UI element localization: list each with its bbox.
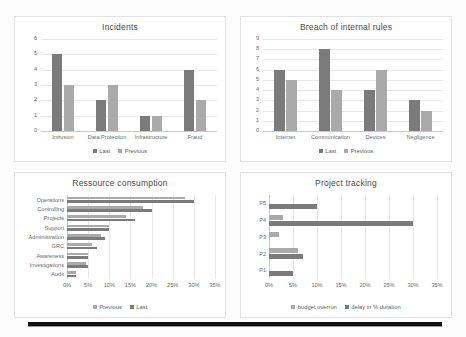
legend-label-previous: Previous	[99, 304, 122, 310]
bar-previous	[67, 271, 76, 274]
legend-label-previous: Previous	[125, 148, 148, 154]
bar-delay-in-duration	[269, 221, 413, 226]
y-axis-tick-label: 0	[21, 127, 37, 133]
legend-swatch-last-icon	[319, 149, 323, 153]
legend-swatch-budget-overrun-icon	[291, 305, 295, 309]
y-axis-tick-label: 8	[243, 45, 259, 51]
legend-label-last: Last	[136, 304, 147, 310]
gridline-y	[263, 70, 443, 71]
y-axis-tick-label: Investigations	[16, 262, 64, 268]
x-axis-tick-label: 25%	[378, 282, 400, 288]
x-axis-tick-label: Infrastructure	[129, 134, 173, 140]
chart-legend-breach: Last Previous	[241, 148, 451, 154]
y-axis-tick-label: 1	[243, 117, 259, 123]
gridline-y	[41, 54, 217, 55]
chart-title-incidents: Incidents	[15, 17, 225, 33]
x-axis-tick-label: 0%	[56, 282, 78, 288]
bar-delay-in-duration	[269, 204, 317, 209]
y-axis-tick-label: Controlling	[16, 206, 64, 212]
bar-previous	[286, 80, 297, 131]
y-axis-tick-label: 4	[243, 86, 259, 92]
y-axis-tick-label: 9	[243, 35, 259, 41]
x-axis-tick-label: 25%	[162, 282, 184, 288]
bar-previous	[67, 243, 92, 246]
bar-last	[274, 70, 285, 131]
x-axis-tick-label: Intrusion	[41, 134, 85, 140]
gridline-x	[152, 195, 153, 279]
plot-area-ressource: 0%5%10%15%20%25%30%35%OperationsControll…	[67, 195, 215, 279]
bar-delay-in-duration	[269, 254, 303, 259]
legend-item-previous: Previous	[118, 148, 147, 154]
bar-previous	[376, 70, 387, 131]
bar-last	[409, 100, 420, 131]
y-axis-tick-label: Operations	[16, 197, 64, 203]
bar-delay-in-duration	[269, 271, 293, 276]
y-axis-tick-label: 0	[243, 127, 259, 133]
y-axis-tick-label: 4	[21, 66, 37, 72]
bar-budget-overrun	[269, 215, 283, 220]
bar-last	[67, 275, 76, 278]
gridline-x	[173, 195, 174, 279]
bar-last	[364, 90, 375, 131]
x-axis-tick-label: 5%	[282, 282, 304, 288]
bar-last	[319, 49, 330, 131]
x-axis-tick-label: 30%	[183, 282, 205, 288]
y-axis-tick-label: P2	[244, 251, 266, 257]
legend-swatch-previous-icon	[344, 149, 348, 153]
legend-label-last: Last	[99, 148, 110, 154]
bar-last	[140, 116, 151, 131]
x-axis-tick-label: Internet	[263, 134, 308, 140]
y-axis-tick-label: Projects	[16, 215, 64, 221]
x-axis-tick-label: Fraud	[173, 134, 217, 140]
gridline-x	[317, 195, 318, 279]
gridline-x	[194, 195, 195, 279]
bar-last	[67, 237, 105, 240]
y-axis-tick-label: 5	[21, 50, 37, 56]
legend-item-delay: delay in % duration	[345, 304, 401, 310]
bar-last	[67, 219, 135, 222]
bar-previous	[67, 234, 101, 237]
y-axis-tick-label: 5	[243, 76, 259, 82]
gridline-x	[413, 195, 414, 279]
chart-title-ressource: Ressource consumption	[15, 173, 225, 189]
chart-legend-ressource: Previous Last	[15, 304, 225, 310]
gridline-y	[263, 49, 443, 50]
bar-last	[67, 256, 88, 259]
bar-last	[52, 54, 63, 131]
gridline-y	[41, 39, 217, 40]
plot-area-breach: 0123456789InternetCommunicationDevicesNe…	[263, 39, 443, 131]
y-axis-tick-label: Awareness	[16, 253, 64, 259]
gridline-x	[389, 195, 390, 279]
y-axis-tick-label: P5	[244, 200, 266, 206]
x-axis-tick-label: Communication	[308, 134, 353, 140]
gridline-x	[215, 195, 216, 279]
bar-previous	[67, 225, 109, 228]
bar-previous	[67, 197, 185, 200]
bar-previous	[331, 90, 342, 131]
x-axis-tick-label: 15%	[119, 282, 141, 288]
x-axis-tick-label: 10%	[306, 282, 328, 288]
y-axis-tick-label: 3	[21, 81, 37, 87]
y-axis-tick-label: 7	[243, 55, 259, 61]
x-axis-tick-label: Devices	[353, 134, 398, 140]
bar-last	[67, 200, 194, 203]
bar-previous	[67, 206, 143, 209]
footer-rule-shadow	[28, 326, 442, 327]
bar-previous	[67, 253, 88, 256]
y-axis-tick-label: 6	[243, 66, 259, 72]
bar-previous	[67, 215, 126, 218]
gridline-y	[263, 59, 443, 60]
y-axis-tick-label: Support	[16, 225, 64, 231]
axis-baseline	[41, 131, 217, 132]
bar-previous	[67, 262, 86, 265]
chart-title-project: Project tracking	[241, 173, 451, 189]
bar-last	[67, 209, 152, 212]
x-axis-tick-label: 35%	[204, 282, 226, 288]
chart-panel-breach: Breach of internal rules 0123456789Inter…	[240, 16, 452, 162]
bar-last	[67, 247, 97, 250]
legend-item-last: Last	[319, 148, 336, 154]
legend-swatch-previous-icon	[93, 305, 97, 309]
y-axis-tick-label: 1	[21, 112, 37, 118]
bar-previous	[421, 111, 432, 131]
y-axis-tick-label: 3	[243, 96, 259, 102]
